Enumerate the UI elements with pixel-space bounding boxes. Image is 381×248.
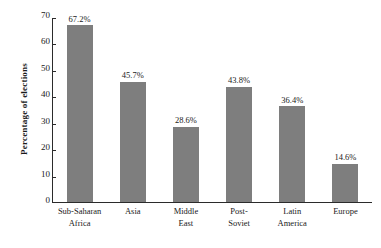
y-axis-tick: 20 [18, 150, 58, 151]
x-axis-label-line: Europe [309, 206, 381, 218]
x-axis-labels: Sub-SaharanAfricaAsiaMiddleEastPost-Sovi… [53, 206, 372, 246]
bar-value-label: 36.4% [281, 96, 303, 105]
bar-chart: Percentage of elections 010203040506070 … [0, 0, 381, 248]
y-axis-tick-label: 60 [41, 37, 50, 46]
bar: 45.7% [120, 82, 146, 202]
y-axis-tick: 0 [18, 203, 58, 204]
y-axis-tick-label: 20 [41, 143, 50, 152]
x-axis-label-line: Africa [44, 218, 116, 230]
y-axis-tick: 40 [18, 97, 58, 98]
bar-slot: 45.7% [106, 18, 159, 202]
bar-value-label: 28.6% [175, 116, 197, 125]
bar-value-label: 67.2% [69, 15, 91, 24]
bar-slot: 36.4% [266, 18, 319, 202]
y-axis-tick: 10 [18, 177, 58, 178]
y-axis-tick-label: 70 [41, 11, 50, 20]
bars-layer: 67.2%45.7%28.6%43.8%36.4%14.6% [53, 18, 372, 202]
y-axis-tick: 70 [18, 18, 58, 19]
bar-slot: 14.6% [319, 18, 372, 202]
bar: 36.4% [279, 106, 305, 202]
x-axis-label: Europe [309, 206, 381, 218]
y-axis-tick-label: 40 [41, 90, 50, 99]
y-axis-tick: 60 [18, 44, 58, 45]
y-axis-tick-label: 50 [41, 64, 50, 73]
y-axis-title: Percentage of elections [19, 29, 29, 189]
plot-area: 010203040506070 67.2%45.7%28.6%43.8%36.4… [52, 18, 372, 203]
bar: 28.6% [173, 127, 199, 202]
bar-slot: 43.8% [213, 18, 266, 202]
y-axis-tick: 50 [18, 71, 58, 72]
bar-value-label: 14.6% [334, 153, 356, 162]
bar-value-label: 43.8% [228, 76, 250, 85]
bar: 67.2% [67, 25, 93, 202]
y-axis-tick-label: 30 [41, 117, 50, 126]
bar-value-label: 45.7% [122, 71, 144, 80]
bar: 14.6% [332, 164, 358, 202]
x-axis-label-line: America [256, 218, 328, 230]
bar-slot: 28.6% [159, 18, 212, 202]
y-axis-tick: 30 [18, 124, 58, 125]
y-axis-tick-label: 10 [41, 170, 50, 179]
bar: 43.8% [226, 87, 252, 202]
x-axis-line [52, 202, 372, 203]
bar-slot: 67.2% [53, 18, 106, 202]
y-axis-tick-label: 0 [46, 196, 51, 205]
